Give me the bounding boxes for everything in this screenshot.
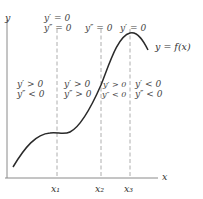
region-2-line1: y′ > 0	[64, 79, 90, 89]
region-4-line1: y′ < 0	[135, 79, 161, 89]
x2-tick-label: x₂	[95, 184, 104, 194]
x1-tick-label: x₁	[51, 184, 60, 194]
x2-annotation: y″ = 0	[85, 23, 112, 33]
curve-label: y = f(x)	[155, 42, 191, 52]
y-axis-label: y	[5, 13, 10, 23]
region-2-line2: y″ > 0	[64, 89, 91, 99]
x3-tick-label: x₃	[124, 184, 133, 194]
region-4-line2: y″ < 0	[135, 89, 162, 99]
x1-annotation-line2: y″ = 0	[44, 23, 71, 33]
region-3-line1: y′ > 0	[103, 80, 126, 90]
concavity-diagram: y x x₁ x₂ x₃ y′ = 0 y″ = 0 y″ = 0 y′ = 0…	[0, 0, 203, 199]
function-curve	[13, 33, 148, 167]
region-1-line1: y′ > 0	[17, 79, 43, 89]
region-3-line2: y″ < 0	[102, 90, 126, 100]
x1-annotation-line1: y′ = 0	[44, 13, 70, 23]
region-1-line2: y″ < 0	[17, 89, 44, 99]
x3-annotation: y′ = 0	[120, 23, 146, 33]
x-axis-label: x	[162, 172, 167, 182]
